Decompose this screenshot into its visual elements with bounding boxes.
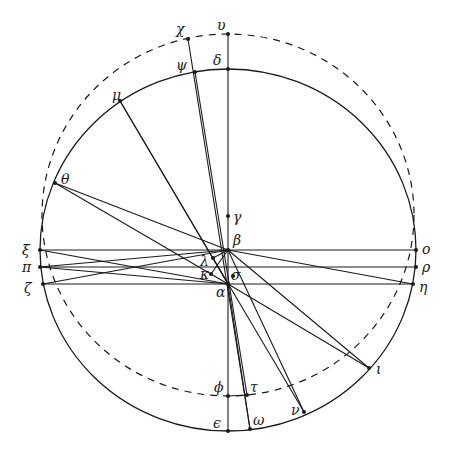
label-psi: ψ bbox=[176, 57, 188, 73]
point-upsilon bbox=[226, 32, 230, 36]
point-pi bbox=[38, 265, 42, 269]
point-theta bbox=[53, 181, 57, 185]
segment-phi-tau bbox=[228, 395, 247, 396]
point-chi bbox=[186, 37, 190, 41]
label-omega: ω bbox=[253, 412, 265, 428]
geometric-diagram: χυψδμθγβλκσαξπζορηιϕτνωϵ bbox=[0, 0, 449, 453]
label-delta: δ bbox=[213, 52, 221, 68]
segment-alpha-omega bbox=[228, 284, 250, 429]
label-tau: τ bbox=[250, 379, 258, 395]
label-kappa: κ bbox=[199, 266, 209, 282]
point-eta bbox=[411, 282, 415, 286]
label-epsilon: ϵ bbox=[213, 415, 221, 431]
label-sigma: σ bbox=[231, 267, 241, 283]
label-nu: ν bbox=[291, 402, 300, 418]
point-beta bbox=[226, 248, 230, 252]
point-psi bbox=[193, 70, 197, 74]
point-omicron bbox=[414, 248, 418, 252]
segments-layer bbox=[40, 34, 416, 431]
label-mu: μ bbox=[112, 87, 121, 103]
label-beta: β bbox=[232, 232, 241, 248]
point-alpha bbox=[226, 282, 230, 286]
point-tau bbox=[245, 393, 249, 397]
point-delta bbox=[226, 67, 230, 71]
diagram-canvas: χυψδμθγβλκσαξπζορηιϕτνωϵ bbox=[0, 0, 449, 453]
segment-beta-iota bbox=[228, 250, 369, 368]
point-gamma bbox=[226, 214, 230, 218]
label-upsilon: υ bbox=[217, 17, 226, 33]
point-zeta bbox=[41, 282, 45, 286]
point-phi bbox=[226, 394, 230, 398]
label-chi: χ bbox=[175, 21, 186, 37]
label-omicron: ο bbox=[422, 241, 430, 257]
point-xi bbox=[38, 248, 42, 252]
point-kappa bbox=[209, 272, 213, 276]
point-omega bbox=[248, 427, 252, 431]
label-eta: η bbox=[419, 279, 428, 295]
point-epsilon bbox=[226, 429, 230, 433]
label-zeta: ζ bbox=[24, 280, 33, 296]
label-iota: ι bbox=[376, 361, 382, 377]
label-alpha: α bbox=[216, 284, 226, 300]
label-theta: θ bbox=[61, 171, 70, 187]
label-xi: ξ bbox=[22, 242, 31, 258]
segment-theta-beta bbox=[55, 183, 228, 250]
point-lambda bbox=[211, 256, 215, 260]
segment-alpha-iota bbox=[228, 284, 369, 368]
point-nu bbox=[302, 410, 306, 414]
label-phi: ϕ bbox=[214, 379, 224, 395]
label-pi: π bbox=[21, 259, 32, 275]
label-rho: ρ bbox=[421, 259, 431, 275]
point-iota bbox=[367, 366, 371, 370]
label-gamma: γ bbox=[233, 209, 242, 225]
point-rho bbox=[414, 265, 418, 269]
